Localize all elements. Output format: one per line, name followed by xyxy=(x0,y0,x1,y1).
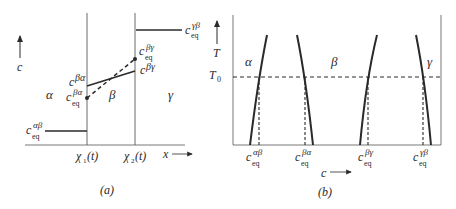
label-c-beta-gamma: c βγ xyxy=(140,61,156,77)
phase-beta-label-b: β xyxy=(330,54,338,69)
svg-text:γβ: γβ xyxy=(420,147,429,157)
ceq-beta-alpha-point xyxy=(85,96,89,100)
svg-text:eq: eq xyxy=(191,31,199,40)
label-ceq-gamma-beta: c γβ eq xyxy=(185,20,201,40)
svg-text:(t): (t) xyxy=(135,149,146,163)
t-axis-label: T xyxy=(213,46,221,60)
c-axis-label-b: c xyxy=(321,166,327,180)
svg-text:eq: eq xyxy=(72,99,80,108)
svg-text:eq: eq xyxy=(364,159,372,168)
svg-text:eq: eq xyxy=(252,159,260,168)
svg-text:eq: eq xyxy=(419,159,427,168)
svg-text:χ: χ xyxy=(75,149,82,163)
c-axis-label: c xyxy=(17,60,23,74)
svg-text:T: T xyxy=(209,68,217,82)
svg-text:eq: eq xyxy=(32,132,40,141)
phase-gamma-label-b: γ xyxy=(427,54,433,69)
panel-b: T T 0 α β γ c αβ eq c xyxy=(209,15,441,199)
label-b-ceq-beta-alpha: c βα eq xyxy=(295,147,311,168)
label-interface-2: χ 2 (t) xyxy=(123,149,146,165)
panel-a: c x α β γ c αβ eq c βα xyxy=(17,13,201,197)
svg-text:βγ: βγ xyxy=(364,147,373,157)
svg-text:βα: βα xyxy=(74,72,86,83)
svg-text:χ: χ xyxy=(123,149,130,163)
phase-alpha-label-b: α xyxy=(245,54,253,69)
svg-text:βα: βα xyxy=(72,87,82,97)
label-t0: T 0 xyxy=(209,68,221,84)
svg-text:γβ: γβ xyxy=(192,20,201,30)
ceq-beta-gamma-point xyxy=(133,57,137,61)
phase-beta-label-a: β xyxy=(108,87,116,102)
label-b-ceq-alpha-beta: c αβ eq xyxy=(246,147,263,168)
caption-a: (a) xyxy=(100,183,114,197)
svg-text:αβ: αβ xyxy=(33,120,43,130)
svg-text:(t): (t) xyxy=(87,149,98,163)
phase-alpha-label-a: α xyxy=(46,87,54,102)
label-ceq-beta-alpha: c βα eq xyxy=(66,87,82,108)
label-interface-1: χ 1 (t) xyxy=(75,149,98,165)
svg-text:0: 0 xyxy=(217,75,221,84)
phase-gamma-label-a: γ xyxy=(168,87,174,102)
caption-b: (b) xyxy=(318,185,332,199)
diffusion-diagram: c x α β γ c αβ eq c βα xyxy=(0,0,456,209)
label-b-ceq-gamma-beta: c γβ eq xyxy=(413,147,429,168)
svg-text:βγ: βγ xyxy=(145,61,156,72)
svg-text:αβ: αβ xyxy=(253,147,263,157)
svg-text:βγ: βγ xyxy=(145,42,154,52)
x-axis-label: x xyxy=(162,147,169,161)
label-ceq-beta-gamma: c βγ eq xyxy=(139,42,154,62)
label-ceq-alpha-beta: c αβ eq xyxy=(26,120,43,141)
label-b-ceq-beta-gamma: c βγ eq xyxy=(358,147,373,168)
svg-text:eq: eq xyxy=(301,159,309,168)
svg-text:βα: βα xyxy=(301,147,311,157)
